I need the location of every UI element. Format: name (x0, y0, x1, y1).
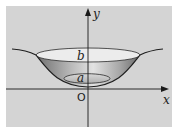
x-axis-label: x (163, 93, 170, 107)
level-a-label: a (77, 71, 84, 85)
level-b-label: b (77, 49, 85, 63)
y-axis-label: y (92, 7, 100, 21)
origin-label: O (77, 91, 86, 104)
bowl-diagram: y x O b a (0, 0, 177, 133)
level-a-ellipse (64, 74, 110, 84)
